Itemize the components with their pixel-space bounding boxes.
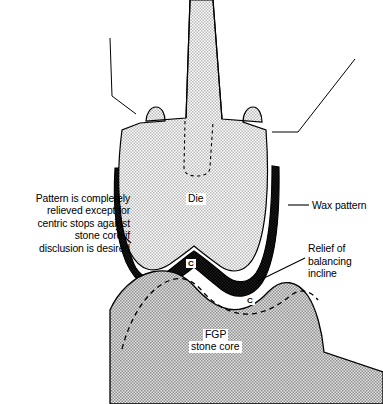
fgp-label: FGP [203, 329, 228, 341]
relief-annotation-note: Relief of balancing incline [308, 243, 352, 281]
relief-note-line-2: balancing [308, 256, 352, 269]
figure-canvas: Pattern is completely relieved except fo… [0, 0, 383, 404]
wax-pattern-annotation: Wax pattern [312, 200, 367, 212]
centric-stop-marker-2: C [245, 296, 255, 305]
centric-stop-marker-1: C [186, 259, 196, 268]
left-note-line-2: relieved except for [2, 205, 130, 217]
relief-note-line-3: incline [308, 268, 352, 281]
die-shape [119, 0, 268, 271]
stone-core-label: stone core [189, 341, 242, 353]
die-label: Die [186, 193, 206, 205]
left-annotation-note: Pattern is completely relieved except fo… [2, 193, 130, 255]
left-note-line-3: centric stops against [2, 218, 130, 230]
left-note-line-1: Pattern is completely [2, 193, 130, 205]
leader-right-upper [272, 59, 355, 132]
relief-note-line-1: Relief of [308, 243, 352, 256]
leader-left-upper [110, 38, 136, 114]
wax-pattern-label: Wax pattern [312, 200, 367, 212]
left-note-line-4: stone core if [2, 230, 130, 242]
left-note-line-5: disclusion is desired [2, 243, 130, 255]
